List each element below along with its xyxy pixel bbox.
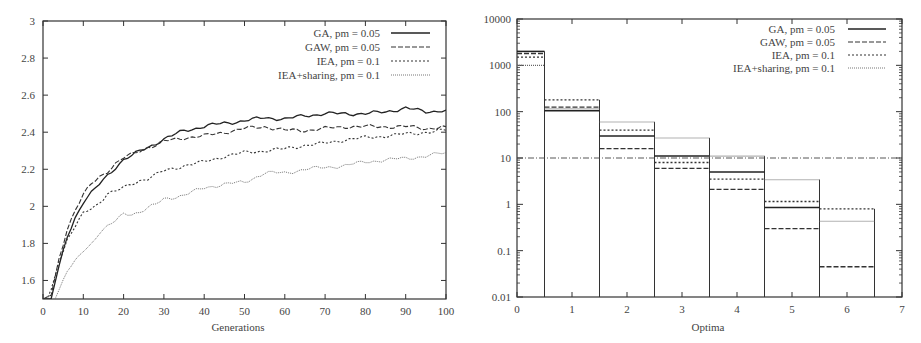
x-tick-label: 100 [438, 305, 455, 317]
right-bar-chart: 012345670.010.1110100100010000 GA, pm = … [484, 13, 906, 333]
y-tick-label: 2 [30, 200, 36, 212]
x-tick-label: 1 [569, 303, 575, 315]
legend-label: GAW, pm = 0.05 [760, 36, 835, 48]
y-tick-label: 2.8 [21, 52, 35, 64]
x-tick-label: 0 [514, 303, 520, 315]
x-tick-label: 40 [199, 305, 211, 317]
figure: 01020304050607080901001.61.822.22.42.62.… [0, 0, 921, 343]
y-tick-label: 2.4 [21, 126, 35, 138]
legend-label: IEA+sharing, pm = 0.1 [278, 69, 380, 81]
x-tick-label: 5 [789, 303, 795, 315]
y-tick-label: 1.8 [21, 237, 35, 249]
x-tick-label: 70 [320, 305, 332, 317]
y-tick-label: 1000 [489, 59, 512, 71]
y-tick-label: 100 [495, 106, 512, 118]
legend-label: GA, pm = 0.05 [314, 27, 381, 39]
left-legend: GA, pm = 0.05GAW, pm = 0.05IEA, pm = 0.1… [278, 27, 430, 81]
x-tick-label: 4 [734, 303, 740, 315]
series-line [43, 129, 446, 308]
legend-label: IEA, pm = 0.1 [317, 55, 380, 67]
y-tick-label: 10 [500, 152, 512, 164]
legend-label: IEA+sharing, pm = 0.1 [733, 62, 835, 74]
y-tick-label: 0.01 [492, 291, 511, 303]
y-tick-label: 1.6 [21, 274, 35, 286]
x-tick-label: 3 [679, 303, 685, 315]
x-tick-label: 6 [844, 303, 850, 315]
left-x-axis-title: Generations [211, 321, 264, 333]
right-x-axis-title: Optima [692, 321, 725, 333]
right-legend: GA, pm = 0.05GAW, pm = 0.05IEA, pm = 0.1… [733, 23, 886, 74]
y-tick-label: 3 [30, 15, 36, 27]
x-tick-label: 80 [360, 305, 372, 317]
x-tick-label: 90 [400, 305, 412, 317]
y-tick-label: 0.1 [497, 245, 511, 257]
x-tick-label: 2 [624, 303, 630, 315]
x-tick-label: 60 [279, 305, 291, 317]
left-axis-ticks: 01020304050607080901001.61.822.22.42.62.… [21, 15, 455, 317]
y-tick-label: 2.6 [21, 89, 35, 101]
legend-label: GAW, pm = 0.05 [305, 41, 380, 53]
x-tick-label: 50 [239, 305, 251, 317]
right-axis-ticks: 012345670.010.1110100100010000 [484, 13, 906, 315]
legend-label: IEA, pm = 0.1 [772, 49, 835, 61]
series-line [43, 124, 446, 299]
left-series-lines [43, 107, 446, 318]
x-tick-label: 20 [118, 305, 130, 317]
series-line [43, 153, 446, 318]
left-line-chart: 01020304050607080901001.61.822.22.42.62.… [21, 15, 455, 333]
y-tick-label: 10000 [484, 13, 512, 25]
y-tick-label: 2.2 [21, 163, 35, 175]
series-line [43, 107, 446, 299]
legend-label: GA, pm = 0.05 [769, 23, 836, 35]
y-tick-label: 1 [506, 198, 512, 210]
x-tick-label: 30 [158, 305, 170, 317]
x-tick-label: 10 [78, 305, 90, 317]
right-bar-levels [517, 51, 875, 297]
x-tick-label: 7 [899, 303, 905, 315]
x-tick-label: 0 [40, 305, 46, 317]
